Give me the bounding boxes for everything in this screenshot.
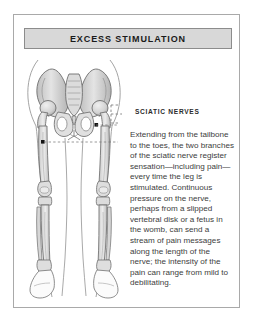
description-text-block: Extending from the tailbone to the toes,…	[130, 130, 234, 289]
panel-title: EXCESS STIMULATION	[70, 34, 186, 44]
foot-group	[30, 260, 118, 298]
lower-leg-group	[37, 205, 112, 264]
sciatic-nerves-callout: SCIATIC NERVES	[108, 103, 236, 125]
panel-title-bar: EXCESS STIMULATION	[24, 28, 232, 49]
callout-bracket-icon	[108, 103, 138, 125]
illustration-page: EXCESS STIMULATION	[0, 0, 253, 325]
skeleton-illustration	[18, 54, 130, 304]
sciatic-nerves-label: SCIATIC NERVES	[135, 108, 200, 115]
description-paragraph: Extending from the tailbone to the toes,…	[130, 130, 234, 289]
knee-group	[38, 181, 111, 205]
